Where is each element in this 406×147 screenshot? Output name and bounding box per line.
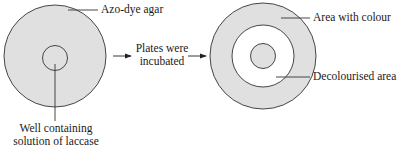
- incubation-label: Plates were incubated: [134, 42, 190, 68]
- decolourised-area-label: Decolourised area: [313, 70, 396, 83]
- right-plate: [210, 3, 316, 109]
- well-label-line1: Well containing: [4, 122, 108, 135]
- area-with-colour-label: Area with colour: [313, 11, 391, 24]
- incubation-label-line2: incubated: [134, 55, 190, 68]
- azo-dye-agar-label: Azo-dye agar: [101, 3, 163, 16]
- incubation-label-line1: Plates were: [134, 42, 190, 55]
- left-plate: [4, 5, 106, 121]
- well-label-line2: solution of laccase: [4, 135, 108, 147]
- well-label: Well containing solution of laccase: [4, 122, 108, 147]
- well: [251, 44, 276, 69]
